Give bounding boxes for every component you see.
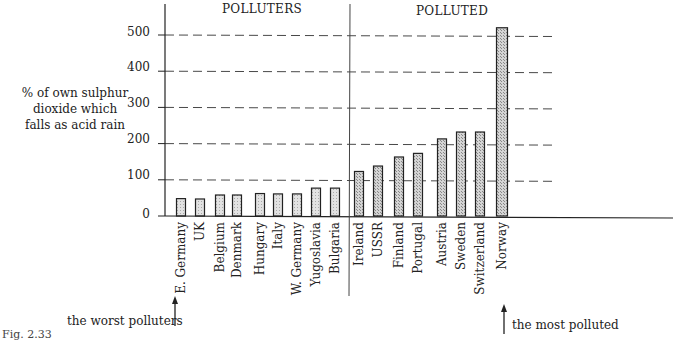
bar-belgium <box>216 195 225 216</box>
x-label: E. Germany <box>174 222 188 294</box>
bar-yugoslavia <box>312 188 321 216</box>
bar-uk <box>196 199 205 216</box>
x-label: Denmark <box>230 221 244 278</box>
x-label: Belgium <box>213 221 227 272</box>
bar-denmark <box>233 195 242 216</box>
bar-chart: E. GermanyUKBelgiumDenmarkHungaryItalyW.… <box>0 0 673 344</box>
note-most-polluted: the most polluted <box>512 318 619 332</box>
x-label: Portugal <box>411 222 425 274</box>
bar-switzerland <box>476 132 485 216</box>
bar-e-germany <box>177 199 186 216</box>
bar-sweden <box>457 132 466 216</box>
bar-austria <box>438 139 447 216</box>
note-worst-polluters: the worst polluters <box>67 314 183 328</box>
x-label: Norway <box>495 222 509 270</box>
bar-bulgaria <box>331 188 340 216</box>
x-label: Italy <box>271 222 285 250</box>
x-label: W. Germany <box>290 222 304 296</box>
bar-w-germany <box>293 194 302 216</box>
bar-italy <box>274 194 283 216</box>
x-label: Finland <box>392 222 406 269</box>
x-label: Hungary <box>253 222 267 275</box>
bar-hungary <box>256 194 265 216</box>
x-label: USSR <box>371 221 385 257</box>
x-label: Yugoslavia <box>309 222 323 287</box>
x-label: Ireland <box>352 222 366 266</box>
bar-ireland <box>355 171 364 216</box>
x-label: Austria <box>435 222 449 267</box>
x-label: Bulgaria <box>328 222 342 274</box>
x-label: UK <box>193 221 207 241</box>
figure-label: Fig. 2.33 <box>2 328 52 341</box>
x-label: Switzerland <box>473 222 487 295</box>
bar-ussr <box>374 166 383 216</box>
x-label: Sweden <box>454 222 468 270</box>
bar-finland <box>395 157 404 216</box>
bar-norway <box>497 28 508 216</box>
bar-portugal <box>414 153 423 216</box>
